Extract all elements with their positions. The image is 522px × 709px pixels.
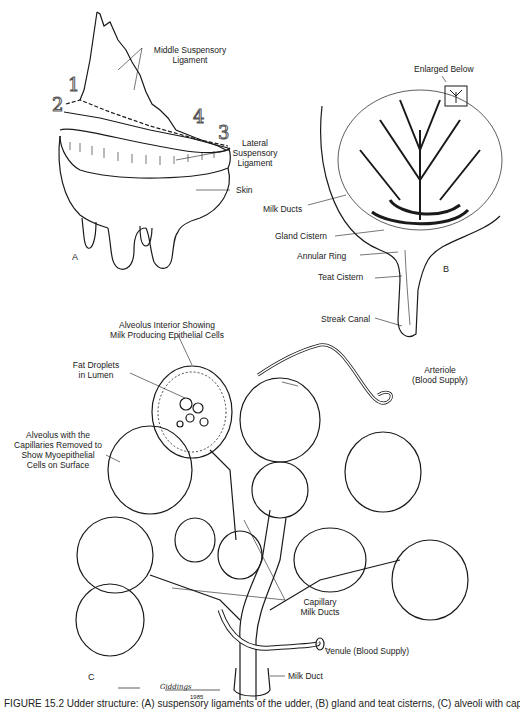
ligament-number-3: 3 [218,122,229,143]
panel-letter-a: A [72,252,78,262]
artist-signature: Giddings [160,682,192,692]
figure-caption: FIGURE 15.2 Udder structure: (A) suspens… [4,698,520,709]
label-middle-suspensory-ligament: Middle Suspensory Ligament [150,45,230,65]
label-skin: Skin [236,185,253,195]
label-line: Middle Suspensory [150,45,230,55]
label-line: Fat Droplets [66,360,126,370]
label-teat-cistern: Teat Cistern [318,272,363,282]
ligament-number-1: 1 [68,74,79,95]
label-fat-droplets: Fat Droplets in Lumen [66,360,126,380]
label-line: in Lumen [66,370,126,380]
label-line: Milk Ducts [290,607,350,617]
label-line: Ligament [230,158,280,168]
panel-c-drawing [76,335,468,700]
ligament-number-4: 4 [193,106,204,127]
label-line: Alveolus Interior Showing [102,320,232,330]
panel-letter-c: C [88,672,95,682]
label-line: Milk Producing Epithelial Cells [102,330,232,340]
label-milk-duct: Milk Duct [288,671,323,681]
label-alveolus-capillaries-removed: Alveolus with the Capillaries Removed to… [8,430,108,470]
label-milk-ducts: Milk Ducts [263,204,302,214]
label-line: Ligament [150,55,230,65]
label-streak-canal: Streak Canal [321,314,370,324]
label-line: Lateral [230,138,280,148]
label-enlarged-below: Enlarged Below [414,64,474,74]
label-line: Alveolus with the [8,430,108,440]
label-line: Cells on Surface [8,460,108,470]
label-gland-cistern: Gland Cistern [275,231,327,241]
label-line: Show Myoepithelial [8,450,108,460]
label-line: Suspensory [230,148,280,158]
label-line: Capillary [290,597,350,607]
label-line: (Blood Supply) [405,375,475,385]
label-annular-ring: Annular Ring [297,251,346,261]
panel-letter-b: B [443,264,449,274]
label-line: Capillaries Removed to [8,440,108,450]
ligament-number-2: 2 [52,94,63,115]
label-capillary-milk-ducts: Capillary Milk Ducts [290,597,350,617]
label-venule: Venule (Blood Supply) [325,646,409,656]
panel-b-drawing [321,76,502,336]
udder-illustration [0,0,522,709]
label-lateral-suspensory-ligament: Lateral Suspensory Ligament [230,138,280,168]
label-line: Arteriole [405,365,475,375]
label-alveolus-interior: Alveolus Interior Showing Milk Producing… [102,320,232,340]
label-arteriole: Arteriole (Blood Supply) [405,365,475,385]
